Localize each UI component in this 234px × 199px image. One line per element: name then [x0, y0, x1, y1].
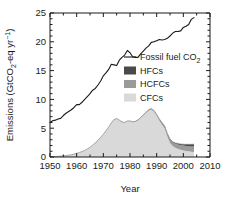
legend-swatch-cfcs [124, 94, 136, 102]
y-axis-title-sup: −1 [4, 32, 11, 40]
y-tick-label: 10 [35, 94, 46, 105]
emissions-chart-figure: 1950196019701980199020002010 0510152025 … [0, 0, 234, 199]
legend-swatch-hcfcs [124, 80, 136, 88]
y-tick-label: 20 [35, 36, 46, 47]
y-axis-title-prefix: Emissions (GtCO [4, 68, 15, 141]
y-tick-label: 0 [41, 151, 46, 162]
legend-swatch-hfcs [124, 67, 136, 75]
y-axis-title: Emissions (GtCO2-eq yr−1) [4, 29, 17, 142]
y-axis-title-mid: -eq yr [4, 40, 15, 64]
legend-label-hcfcs: HCFCs [140, 79, 170, 89]
legend-label-hfcs: HFCs [140, 66, 163, 76]
y-tick-label: 5 [41, 123, 46, 134]
x-tick-label: 1960 [66, 160, 87, 171]
x-tick-label: 1970 [93, 160, 114, 171]
x-tick-label: 1980 [119, 160, 140, 171]
x-tick-label: 2010 [199, 160, 220, 171]
y-tick-label: 15 [35, 65, 46, 76]
legend-label-fossil-fuel-co2: Fossil fuel CO2 [140, 52, 201, 64]
x-axis-title: Year [120, 183, 139, 194]
x-tick-label: 1990 [146, 160, 167, 171]
legend-label-cfcs: CFCs [140, 93, 163, 103]
x-tick-label: 2000 [173, 160, 194, 171]
y-axis-title-suffix: ) [4, 29, 15, 32]
chart-canvas: 1950196019701980199020002010 0510152025 … [0, 0, 234, 199]
y-tick-label: 25 [35, 7, 46, 18]
